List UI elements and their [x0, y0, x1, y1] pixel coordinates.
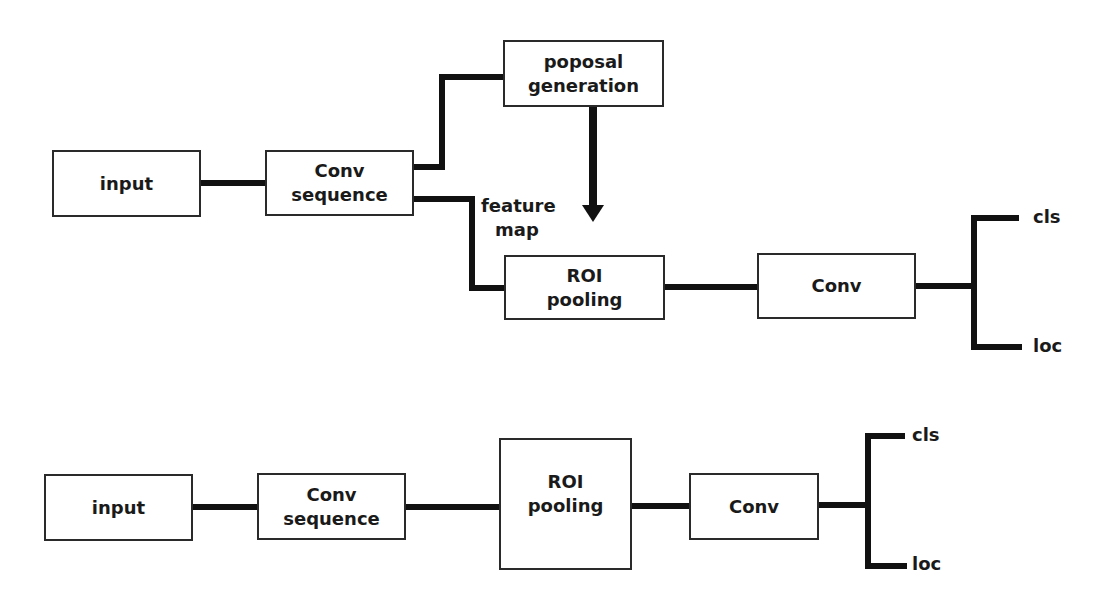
diagram-canvas: input Conv sequence poposal generation f… — [0, 0, 1115, 591]
top-roi-pooling-line1: ROI — [567, 264, 603, 288]
edge-conv-sequence-to-proposal — [414, 77, 503, 167]
top-conv-label: Conv — [811, 274, 861, 298]
top-roi-pooling-box: ROI pooling — [504, 255, 665, 320]
feature-map-label: feature map — [481, 194, 556, 242]
bottom-conv-sequence-line1: Conv — [306, 483, 356, 507]
bottom-conv-sequence-box: Conv sequence — [257, 473, 406, 540]
top-roi-pooling-line2: pooling — [547, 288, 623, 312]
proposal-generation-line1: poposal — [544, 50, 624, 74]
top-conv-sequence-line2: sequence — [291, 183, 388, 207]
bottom-loc-output-label: loc — [912, 553, 941, 575]
top-loc-output-label: loc — [1033, 335, 1062, 357]
top-input-box: input — [52, 150, 201, 217]
bottom-roi-pooling-line1: ROI — [548, 470, 584, 494]
top-input-label: input — [100, 172, 153, 196]
proposal-generation-box: poposal generation — [503, 40, 664, 107]
bottom-input-box: input — [44, 474, 193, 541]
top-conv-sequence-line1: Conv — [314, 159, 364, 183]
bottom-roi-pooling-box: ROI pooling — [499, 438, 632, 570]
bottom-input-label: input — [92, 496, 145, 520]
feature-map-line2: map — [481, 218, 556, 242]
bottom-conv-label: Conv — [729, 495, 779, 519]
proposal-generation-line2: generation — [528, 74, 639, 98]
bottom-cls-output-label: cls — [912, 424, 940, 446]
bottom-roi-pooling-line2: pooling — [528, 494, 604, 518]
feature-map-line1: feature — [481, 194, 556, 218]
bottom-conv-box: Conv — [689, 473, 819, 540]
top-conv-box: Conv — [757, 253, 916, 319]
bottom-conv-sequence-line2: sequence — [283, 507, 380, 531]
top-conv-sequence-box: Conv sequence — [265, 150, 414, 216]
arrow-head-icon — [582, 205, 604, 222]
top-cls-output-label: cls — [1033, 206, 1061, 228]
